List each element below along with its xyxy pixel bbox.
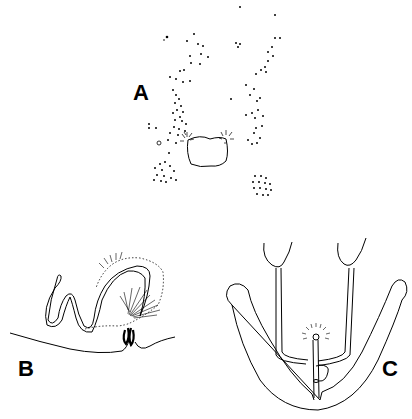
panel-c-right-bulb [338, 238, 366, 265]
panel-c-u-sclerite [226, 280, 406, 410]
panel-b-body-outline [10, 333, 129, 353]
panel-label-b: B [18, 358, 34, 380]
panel-c-pore-setae [302, 323, 330, 339]
panel-label-a: A [133, 82, 149, 104]
panel-c-right-duct [316, 268, 354, 366]
panel-b-body-outline-right [135, 337, 175, 348]
panel-c-small-ring [314, 380, 319, 383]
panel-label-c: C [382, 358, 398, 380]
panel-c-left-bulb [264, 242, 292, 267]
panel-a-central-plate [187, 137, 227, 167]
panel-b-setae-brush [99, 252, 160, 318]
panel-b-coiled-duct [46, 266, 150, 332]
panel-c-loop [319, 365, 328, 381]
panel-a-setae-dots [148, 6, 281, 196]
figure-drawing [0, 0, 412, 419]
panel-c-central-pore [313, 334, 319, 340]
panel-c-left-duct [276, 268, 308, 364]
panel-a-ring [157, 141, 161, 145]
anatomical-figure: A B C [0, 0, 412, 419]
panel-c-central-stalk [313, 340, 319, 398]
